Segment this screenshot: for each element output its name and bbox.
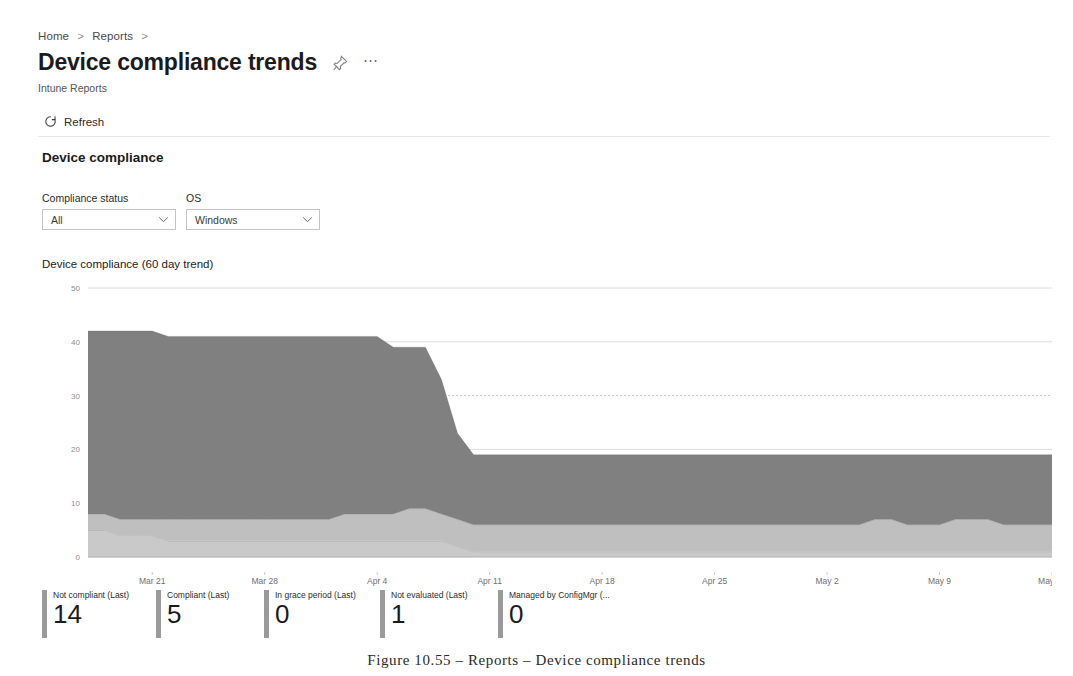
filter-label-compliance-status: Compliance status — [42, 192, 176, 204]
kpi-value: 5 — [167, 601, 249, 628]
kpi-card[interactable]: Not compliant (Last)14 — [42, 590, 141, 638]
compliance-trend-chart: 01020304050 — [38, 280, 1052, 572]
figure-caption: Figure 10.55 – Reports – Device complian… — [0, 652, 1073, 669]
svg-text:Mar 28: Mar 28 — [251, 576, 278, 586]
refresh-button[interactable]: Refresh — [40, 112, 108, 131]
page-subtitle: Intune Reports — [38, 82, 107, 94]
svg-text:0: 0 — [76, 553, 81, 562]
chevron-down-icon — [302, 216, 313, 223]
svg-text:50: 50 — [71, 284, 80, 293]
filter-os: OS Windows — [186, 192, 320, 230]
kpi-legend-row: Not compliant (Last)14Compliant (Last)5I… — [42, 590, 619, 638]
kpi-accent-bar — [156, 590, 161, 638]
svg-text:Apr 25: Apr 25 — [702, 576, 727, 586]
compliance-status-value: All — [51, 214, 63, 226]
svg-text:Apr 4: Apr 4 — [367, 576, 388, 586]
svg-text:40: 40 — [71, 338, 80, 347]
svg-text:10: 10 — [71, 499, 80, 508]
pin-icon[interactable] — [331, 54, 349, 72]
kpi-value: 14 — [53, 601, 141, 628]
breadcrumb-item-reports[interactable]: Reports — [92, 30, 133, 42]
chart-x-axis: Mar 21Mar 28Apr 4Apr 11Apr 18Apr 25May 2… — [38, 572, 1052, 588]
svg-text:May 16: May 16 — [1038, 576, 1052, 586]
kpi-value: 0 — [509, 601, 619, 628]
chart-title: Device compliance (60 day trend) — [42, 258, 213, 270]
kpi-accent-bar — [264, 590, 269, 638]
kpi-value: 0 — [275, 601, 365, 628]
page-title: Device compliance trends — [38, 50, 317, 75]
svg-text:20: 20 — [71, 445, 80, 454]
refresh-label: Refresh — [64, 116, 104, 128]
command-bar-divider — [38, 136, 1050, 137]
kpi-text: Compliant (Last)5 — [167, 590, 249, 638]
os-value: Windows — [195, 214, 238, 226]
kpi-card[interactable]: Managed by ConfigMgr (...0 — [498, 590, 619, 638]
kpi-value: 1 — [391, 601, 483, 628]
ellipsis-icon[interactable]: ⋯ — [363, 52, 380, 73]
filter-label-os: OS — [186, 192, 320, 204]
os-dropdown[interactable]: Windows — [186, 209, 320, 230]
breadcrumb-item-home[interactable]: Home — [38, 30, 69, 42]
title-row: Device compliance trends ⋯ — [38, 50, 379, 75]
command-bar: Refresh — [40, 112, 108, 131]
compliance-status-dropdown[interactable]: All — [42, 209, 176, 230]
kpi-card[interactable]: Not evaluated (Last)1 — [380, 590, 483, 638]
svg-text:May 9: May 9 — [928, 576, 951, 586]
svg-text:May 2: May 2 — [815, 576, 838, 586]
kpi-text: Not evaluated (Last)1 — [391, 590, 483, 638]
breadcrumb-separator: > — [77, 30, 84, 42]
breadcrumb: Home > Reports > — [38, 30, 153, 42]
chart-canvas: 01020304050 — [38, 280, 1052, 572]
kpi-text: In grace period (Last)0 — [275, 590, 365, 638]
kpi-card[interactable]: Compliant (Last)5 — [156, 590, 249, 638]
filter-compliance-status: Compliance status All — [42, 192, 176, 230]
breadcrumb-separator-2: > — [141, 30, 148, 42]
kpi-text: Not compliant (Last)14 — [53, 590, 141, 638]
kpi-accent-bar — [498, 590, 503, 638]
svg-text:30: 30 — [71, 392, 80, 401]
section-title: Device compliance — [42, 150, 164, 165]
refresh-icon — [44, 115, 57, 128]
kpi-accent-bar — [42, 590, 47, 638]
kpi-accent-bar — [380, 590, 385, 638]
svg-text:Apr 11: Apr 11 — [477, 576, 502, 586]
kpi-card[interactable]: In grace period (Last)0 — [264, 590, 365, 638]
chevron-down-icon — [158, 216, 169, 223]
kpi-label: Managed by ConfigMgr (... — [509, 590, 619, 600]
filter-bar: Compliance status All OS Windows — [42, 192, 320, 230]
svg-text:Mar 21: Mar 21 — [139, 576, 166, 586]
kpi-text: Managed by ConfigMgr (...0 — [509, 590, 619, 638]
svg-text:Apr 18: Apr 18 — [590, 576, 615, 586]
